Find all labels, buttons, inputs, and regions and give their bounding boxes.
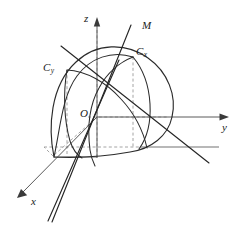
x-axis-arrowhead (17, 189, 27, 198)
y-axis-label: y (222, 122, 227, 133)
figure-root: z y x M O Cx Cy (0, 0, 241, 228)
x-axis-label: x (31, 196, 36, 207)
curve-cy-base: C (43, 61, 50, 73)
diagram-canvas (0, 0, 241, 228)
curve-cx-label: Cx (136, 46, 147, 59)
x-axis-line (23, 117, 97, 192)
line-normal-path (48, 60, 119, 221)
curve-cy-subscript: y (51, 66, 54, 75)
normal-line (48, 60, 119, 221)
origin-label: O (80, 108, 88, 119)
curve-cx-right (133, 57, 150, 149)
coordinate-curve-cy (65, 70, 147, 158)
z-axis-arrowhead (94, 17, 100, 27)
z-axis-label: z (84, 13, 88, 24)
y-axis-arrowhead (220, 114, 230, 121)
curve-cy-label: Cy (43, 62, 54, 75)
curve-cx-base: C (136, 45, 143, 57)
curve-cx-subscript: x (144, 50, 147, 59)
point-m-label: M (142, 20, 151, 31)
guide-base-left-edge (44, 147, 53, 156)
surface-crest-ridge (54, 54, 133, 157)
